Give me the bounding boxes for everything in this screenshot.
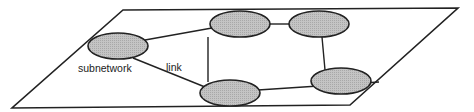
network-diagram: subnetwork link (0, 0, 474, 112)
link-label: link (166, 61, 183, 73)
subnetwork-node-3 (289, 11, 349, 37)
subnetwork-node-1 (88, 33, 148, 59)
subnetwork-label: subnetwork (78, 62, 132, 74)
subnetwork-node-2 (210, 11, 270, 37)
subnetwork-node-5 (200, 80, 260, 106)
subnetwork-node-4 (311, 68, 371, 94)
